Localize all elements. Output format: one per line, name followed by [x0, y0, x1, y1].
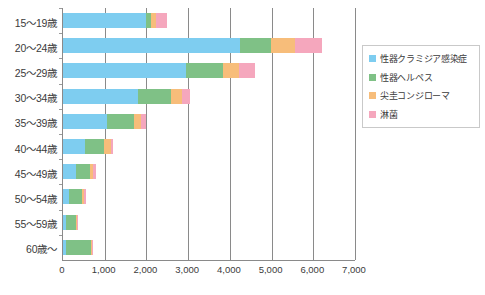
- bar-segment: [77, 215, 78, 230]
- category-label: 15～19歳: [0, 15, 57, 30]
- bar-row: [63, 58, 354, 83]
- legend-item[interactable]: 性器ヘルペス: [369, 71, 474, 84]
- bar-segment: [63, 63, 186, 78]
- x-tick-label: 7,000: [342, 264, 366, 275]
- bar-segment: [63, 164, 76, 179]
- bar-segment: [63, 114, 107, 129]
- y-axis-tick: [59, 184, 62, 185]
- chart-legend: 性器クラミジア感染症性器ヘルペス尖圭コンジローマ淋菌: [362, 45, 480, 128]
- bar-row: [63, 33, 354, 58]
- bar-segment: [63, 89, 138, 104]
- bar-segment: [156, 13, 167, 28]
- x-axis-line: [62, 260, 355, 261]
- category-label: 60歳～: [0, 241, 57, 256]
- x-tick-label: 6,000: [300, 264, 324, 275]
- category-label: 45～49歳: [0, 166, 57, 181]
- category-label: 20～24歳: [0, 40, 57, 55]
- stacked-bar: [63, 38, 322, 53]
- legend-swatch-icon: [369, 74, 376, 81]
- y-axis-tick: [59, 109, 62, 110]
- y-axis-tick: [59, 210, 62, 211]
- y-axis-tick: [59, 8, 62, 9]
- bar-segment: [138, 89, 171, 104]
- bar-segment: [223, 63, 239, 78]
- category-label: 25～29歳: [0, 65, 57, 80]
- bar-segment: [92, 240, 93, 255]
- bar-segment: [295, 38, 321, 53]
- legend-label: 淋菌: [380, 108, 397, 121]
- stacked-bar: [63, 189, 86, 204]
- bar-row: [63, 235, 354, 260]
- bar-row: [63, 134, 354, 159]
- legend-label: 性器ヘルペス: [380, 71, 432, 84]
- bar-segment: [111, 139, 114, 154]
- bar-segment: [134, 114, 142, 129]
- bar-segment: [66, 240, 91, 255]
- bar-row: [63, 84, 354, 109]
- legend-item[interactable]: 性器クラミジア感染症: [369, 52, 474, 65]
- bar-segment: [186, 63, 223, 78]
- bar-segment: [171, 89, 181, 104]
- x-tick-label: 0: [59, 264, 64, 275]
- legend-label: 尖圭コンジローマ: [380, 89, 450, 102]
- legend-item[interactable]: 淋菌: [369, 108, 474, 121]
- bar-segment: [63, 38, 240, 53]
- x-tick-label: 1,000: [92, 264, 116, 275]
- y-axis-tick: [59, 33, 62, 34]
- category-label: 50～54歳: [0, 191, 57, 206]
- stacked-bar: [63, 13, 167, 28]
- bar-segment: [69, 189, 82, 204]
- category-label: 35～39歳: [0, 115, 57, 130]
- stacked-bar: [63, 63, 255, 78]
- bar-segment: [104, 139, 111, 154]
- stacked-bar: [63, 240, 93, 255]
- y-axis-tick: [59, 235, 62, 236]
- x-tick-label: 2,000: [134, 264, 158, 275]
- y-axis-tick: [59, 159, 62, 160]
- stacked-bar: [63, 139, 113, 154]
- bar-row: [63, 184, 354, 209]
- stacked-bar: [63, 215, 78, 230]
- legend-label: 性器クラミジア感染症: [380, 52, 467, 65]
- legend-swatch-icon: [369, 92, 376, 99]
- bar-row: [63, 210, 354, 235]
- bar-segment: [76, 164, 90, 179]
- x-tick-label: 4,000: [217, 264, 241, 275]
- bar-segment: [85, 139, 105, 154]
- bar-segment: [63, 139, 85, 154]
- gridline: [355, 8, 356, 260]
- category-label: 40～44歳: [0, 141, 57, 156]
- legend-item[interactable]: 尖圭コンジローマ: [369, 89, 474, 102]
- y-axis-tick: [59, 84, 62, 85]
- bar-segment: [84, 189, 85, 204]
- bar-row: [63, 109, 354, 134]
- bar-segment: [93, 164, 95, 179]
- bar-segment: [182, 89, 190, 104]
- legend-swatch-icon: [369, 111, 376, 118]
- plot-area: [62, 8, 354, 260]
- x-tick-label: 5,000: [259, 264, 283, 275]
- stacked-bar: [63, 89, 190, 104]
- bar-row: [63, 159, 354, 184]
- bar-row: [63, 8, 354, 33]
- category-label: 30～34歳: [0, 90, 57, 105]
- x-tick-label: 3,000: [175, 264, 199, 275]
- category-label: 55～59歳: [0, 216, 57, 231]
- y-axis-tick: [59, 58, 62, 59]
- y-axis-tick: [59, 134, 62, 135]
- bar-segment: [141, 114, 146, 129]
- bar-segment: [271, 38, 295, 53]
- bar-segment: [240, 38, 271, 53]
- bar-segment: [66, 215, 76, 230]
- stacked-bar-chart: 15～19歳20～24歳25～29歳30～34歳35～39歳40～44歳45～4…: [0, 0, 485, 295]
- bar-segment: [107, 114, 134, 129]
- legend-swatch-icon: [369, 55, 376, 62]
- bar-segment: [63, 13, 146, 28]
- stacked-bar: [63, 164, 96, 179]
- bar-segment: [239, 63, 256, 78]
- stacked-bar: [63, 114, 146, 129]
